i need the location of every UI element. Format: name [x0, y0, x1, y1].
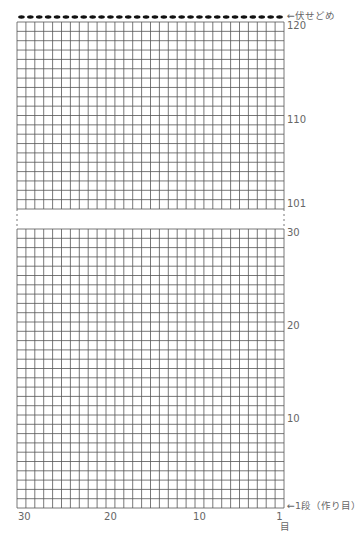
- bind-off-stitch: [98, 15, 105, 18]
- bind-off-stitch: [258, 15, 265, 18]
- bind-off-stitch: [63, 15, 70, 18]
- bind-off-stitch: [54, 15, 61, 18]
- bind-off-stitch: [267, 15, 274, 18]
- bind-off-stitch: [36, 15, 43, 18]
- bind-off-stitch: [169, 15, 176, 18]
- row-label: 110: [287, 114, 306, 125]
- bind-off-stitch: [116, 15, 123, 18]
- bind-off-stitch: [223, 15, 230, 18]
- grid-upper-section: [17, 22, 284, 209]
- bind-off-stitch: [161, 15, 168, 18]
- bind-off-label: ←伏せどめ: [287, 10, 335, 21]
- bind-off-stitch: [27, 15, 34, 18]
- row-label: 30: [287, 227, 300, 238]
- row-labels: 120110101302010: [287, 20, 306, 424]
- bind-off-stitch: [125, 15, 132, 18]
- cast-on-label: ←1段（作り目）: [287, 500, 361, 511]
- bind-off-stitch: [152, 15, 159, 18]
- column-label: 30: [18, 511, 31, 522]
- bind-off-stitch: [232, 15, 239, 18]
- column-labels: 3020101: [18, 511, 283, 522]
- bind-off-stitch: [205, 15, 212, 18]
- column-label: 20: [104, 511, 117, 522]
- bind-off-row: [18, 15, 283, 18]
- row-label: 120: [287, 20, 306, 31]
- bind-off-stitch: [18, 15, 25, 18]
- bind-off-stitch: [178, 15, 185, 18]
- bind-off-stitch: [89, 15, 96, 18]
- bind-off-stitch: [143, 15, 150, 18]
- bind-off-stitch: [72, 15, 79, 18]
- column-label: 10: [193, 511, 206, 522]
- bind-off-stitch: [196, 15, 203, 18]
- column-unit-label: 目: [280, 521, 290, 532]
- bind-off-stitch: [241, 15, 248, 18]
- grid-lower-section: [17, 229, 284, 508]
- bind-off-stitch: [45, 15, 52, 18]
- bind-off-stitch: [80, 15, 87, 18]
- knitting-chart: 120110101302010 3020101 ←伏せどめ ←1段（作り目） 目: [0, 0, 361, 539]
- bind-off-stitch: [134, 15, 141, 18]
- bind-off-stitch: [250, 15, 257, 18]
- row-label: 101: [287, 198, 306, 209]
- bind-off-stitch: [107, 15, 114, 18]
- bind-off-stitch: [187, 15, 194, 18]
- bind-off-stitch: [214, 15, 221, 18]
- row-label: 20: [287, 320, 300, 331]
- section-break: [17, 209, 284, 229]
- bind-off-stitch: [276, 15, 283, 18]
- row-label: 10: [287, 413, 300, 424]
